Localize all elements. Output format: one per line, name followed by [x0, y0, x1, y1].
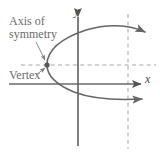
y-axis-label: y: [74, 5, 79, 18]
axis-of-symmetry-label-line1: Axis of: [9, 15, 57, 28]
x-axis-label: x: [145, 73, 150, 86]
axis-of-symmetry-label-line2: symmetry: [9, 28, 57, 41]
parabola-figure: Axis of symmetry Vertex x y: [0, 0, 160, 154]
parabola-upper-branch: [47, 26, 145, 65]
axis-of-symmetry-leader-line: [36, 42, 45, 60]
axis-of-symmetry-label: Axis of symmetry: [9, 15, 57, 41]
vertex-label: Vertex: [9, 69, 40, 82]
vertex-point: [44, 62, 49, 67]
